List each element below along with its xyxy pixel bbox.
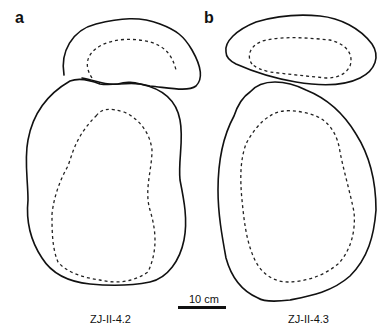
- panel-a-upper-outline: [63, 19, 200, 89]
- panel-label-b: b: [204, 10, 214, 26]
- panel-b-inner: [241, 111, 355, 282]
- panel-label-a: a: [15, 10, 24, 26]
- scale-bar-label: 10 cm: [189, 294, 219, 305]
- scale-bar: [178, 306, 226, 309]
- panel-a-lower-inner: [52, 109, 155, 282]
- panel-a-lower-piece: [26, 80, 185, 286]
- specimen-label-b: ZJ-II-4.3: [288, 314, 329, 325]
- panel-a-upper-inner: [87, 39, 176, 78]
- panel-b-upper-outline: [226, 15, 376, 84]
- figure: a b ZJ-II-4.2 ZJ-II-4.3 10 cm: [0, 0, 386, 336]
- panel-a-upper-piece: [63, 19, 200, 89]
- panel-b-lower-piece: [218, 82, 376, 301]
- specimen-label-a: ZJ-II-4.2: [90, 314, 131, 325]
- panel-b-lower-outline: [218, 82, 376, 301]
- drawing-canvas: [0, 0, 386, 336]
- panel-b-upper-piece: [226, 15, 376, 84]
- panel-a-lower-outline: [26, 80, 185, 286]
- panel-b-upper-inner: [249, 38, 351, 78]
